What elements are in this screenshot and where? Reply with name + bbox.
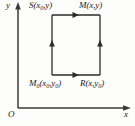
geometry-figure: S(x0,y) M(x,y) M0(x0,y0) R(x,y0) y x O [0,0,135,126]
vertex-label-R: R(x,y0) [80,79,104,88]
origin-label: O [8,110,14,119]
bottom-edge-arrow-right-icon [73,72,80,78]
vertex-label-M0: M0(x0,y0) [29,79,61,88]
figure-canvas [0,0,135,126]
y-axis [15,2,21,108]
y-axis-arrowhead-icon [15,2,21,10]
vertex-label-M: M(x,y) [79,1,102,10]
y-axis-label: y [6,1,10,10]
rectangle-path [52,15,100,75]
top-edge-arrow-right-icon [73,12,80,18]
x-axis [18,105,131,111]
x-axis-label: x [124,110,128,119]
edge-direction-arrows [49,12,103,78]
left-edge-arrow-up-icon [49,40,55,47]
vertex-label-S: S(x0,y) [29,1,52,10]
right-edge-arrow-up-icon [97,40,103,47]
